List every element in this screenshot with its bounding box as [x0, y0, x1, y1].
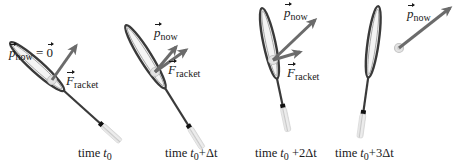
time-prefix: time [335, 146, 360, 160]
racket-icon [354, 5, 383, 138]
momentum-label-t0-plus-3dt: pnow [407, 7, 431, 23]
momentum-symbol: p [407, 7, 414, 20]
time-subscript: 0 [107, 151, 112, 162]
time-prefix: time [78, 146, 103, 160]
zero-vector: 0 [47, 46, 54, 59]
momentum-symbol: p [154, 26, 161, 39]
momentum-subscript: now [414, 12, 431, 23]
force-label-t0-plus-dt: Fracket [168, 63, 200, 79]
force-subscript: racket [176, 68, 200, 79]
time-suffix: +2Δt [289, 146, 317, 160]
force-label-t0: Fracket [66, 74, 98, 90]
time-label-t0-plus-2dt: time t0 +2Δt [255, 147, 317, 162]
momentum-subscript: now [291, 11, 308, 22]
time-label-t0-plus-3dt: time t0+3Δt [335, 147, 394, 162]
time-prefix: time [255, 146, 280, 160]
time-suffix: +3Δt [369, 146, 394, 160]
time-label-t0: time t0 [78, 147, 112, 162]
momentum-label-t0-plus-2dt: pnow [284, 6, 308, 22]
equals-sign: = [33, 45, 47, 60]
momentum-subscript: now [161, 31, 178, 42]
force-symbol: F [168, 63, 176, 76]
force-label-t0-plus-2dt: Fracket [287, 66, 319, 82]
momentum-subscript: now [16, 51, 33, 62]
force-symbol: F [287, 66, 295, 79]
force-subscript: racket [295, 71, 319, 82]
racket-ball-diagram: pnow = 0 Fracket time t0 pnow Fracket ti… [0, 0, 456, 168]
momentum-symbol: p [284, 6, 291, 19]
time-suffix: +Δt [199, 146, 218, 160]
force-subscript: racket [74, 79, 98, 90]
time-label-t0-plus-dt: time t0+Δt [165, 147, 217, 162]
panel-t0-plus-3dt [354, 5, 450, 138]
momentum-symbol: p [9, 46, 16, 59]
momentum-label-t0: pnow = 0 [9, 46, 53, 62]
force-symbol: F [66, 74, 74, 87]
time-prefix: time [165, 146, 190, 160]
momentum-label-t0-plus-dt: pnow [154, 26, 178, 42]
